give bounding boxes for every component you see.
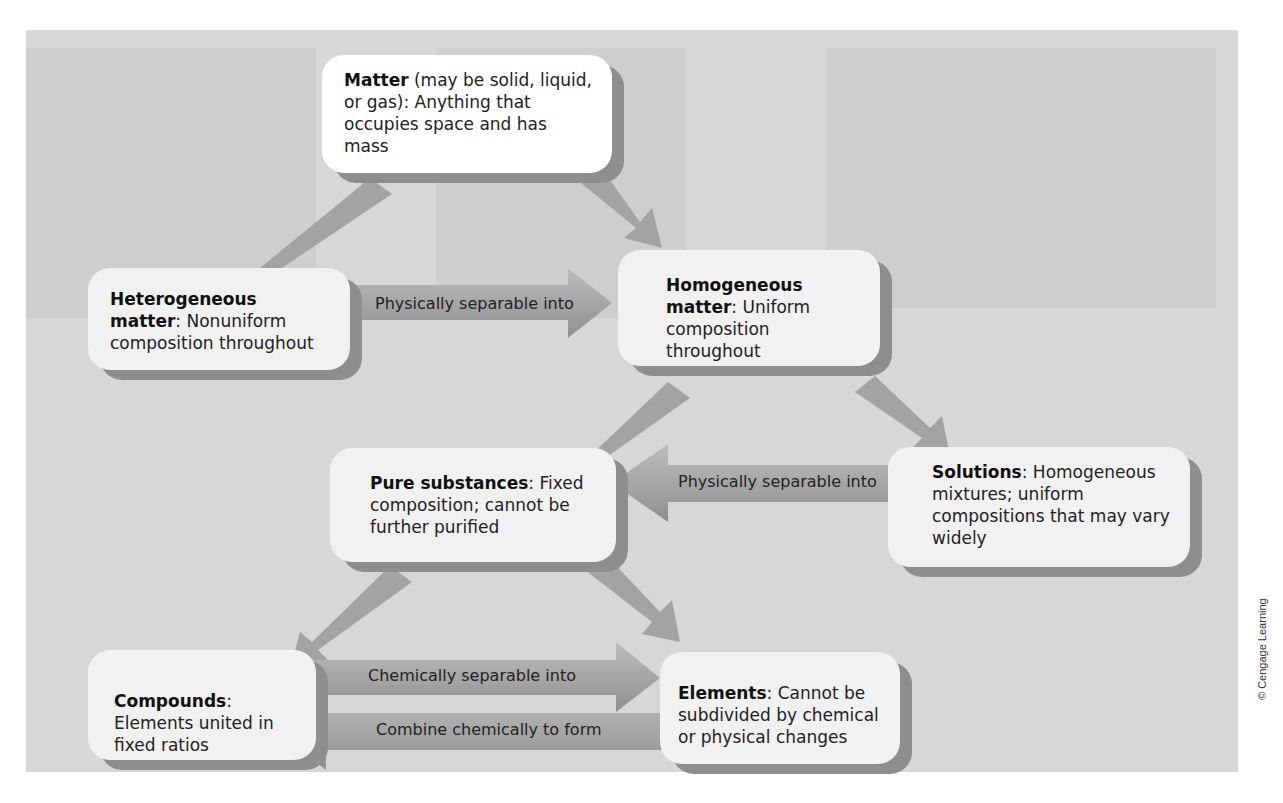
node-heterogeneous: Heterogeneous matter: Nonuniform composi… [88,268,350,370]
label-physically-separable-2: Physically separable into [678,472,877,491]
label-physically-separable-1: Physically separable into [375,294,574,313]
node-solutions: Solutions: Homogeneous mixtures; uniform… [888,447,1190,567]
node-solutions-title: Solutions [932,462,1022,482]
node-compounds-title: Compounds [114,691,226,711]
node-compounds: Compounds: Elements united in fixed rati… [88,650,316,760]
arrow-homogeneous-to-solutions [855,376,950,456]
node-matter-title: Matter [344,70,409,90]
node-matter: Matter (may be solid, liquid, or gas): A… [322,55,612,173]
copyright-credit: © Cengage Learning [1256,598,1268,700]
arrow-pure-to-elements [585,555,680,642]
arrow-matter-to-homogeneous [575,162,662,248]
node-homogeneous: Homogeneous matter: Uniform composition … [618,250,880,366]
node-pure-title: Pure substances [370,473,528,493]
node-elements: Elements: Cannot be subdivided by chemic… [660,652,900,764]
label-combine-chemically: Combine chemically to form [376,720,602,739]
label-chemically-separable: Chemically separable into [368,666,576,685]
node-elements-title: Elements [678,683,767,703]
node-pure-substances: Pure substances: Fixed composition; cann… [330,448,616,562]
